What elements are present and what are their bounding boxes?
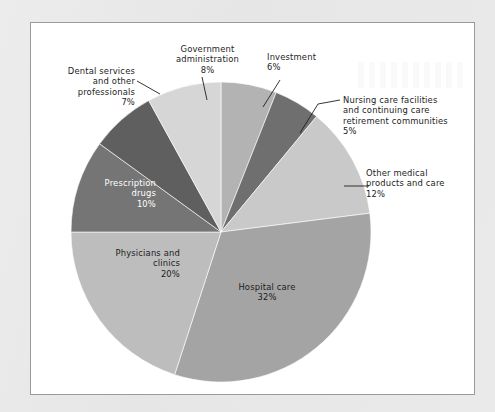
slice-label-physicians-and-clinics: Physicians and clinics 20% [94, 248, 180, 279]
figure-root: Dental services and other professionals … [0, 0, 495, 412]
slice-label-hospital-care: Hospital care 32% [224, 282, 310, 303]
pie-slice-group [71, 82, 371, 382]
slice-label-nursing-care: Nursing care facilities and continuing c… [343, 95, 491, 136]
slice-label-government-administration: Government administration 8% [160, 44, 255, 75]
slice-label-investment: Investment 6% [267, 52, 337, 73]
slice-label-dental-services: Dental services and other professionals … [37, 66, 135, 107]
pie-chart: Dental services and other professionals … [0, 0, 495, 412]
slice-label-other-medical-products: Other medical products and care 12% [366, 168, 488, 199]
leader-line-dental [137, 81, 160, 94]
slice-label-prescription-drugs: Prescription drugs 10% [82, 178, 156, 209]
